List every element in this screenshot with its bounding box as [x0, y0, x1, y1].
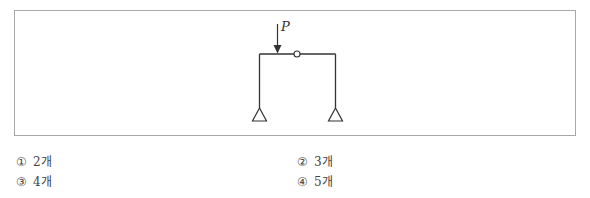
choice-1[interactable]: ①2개	[16, 155, 52, 169]
choice-text: 5개	[314, 175, 333, 189]
choice-text: 4개	[33, 175, 52, 189]
choice-text: 2개	[33, 155, 52, 169]
choice-number: ④	[297, 175, 308, 189]
choice-3[interactable]: ③4개	[16, 175, 52, 189]
hinge-icon	[294, 51, 300, 57]
structure-diagram	[0, 0, 590, 198]
choice-number: ③	[16, 175, 27, 189]
choice-number: ①	[16, 155, 27, 169]
pin-support-left-icon	[253, 108, 267, 121]
pin-support-right-icon	[329, 108, 343, 121]
load-label: P	[281, 20, 290, 33]
choice-2[interactable]: ②3개	[297, 155, 333, 169]
choice-text: 3개	[314, 155, 333, 169]
choice-4[interactable]: ④5개	[297, 175, 333, 189]
choice-number: ②	[297, 155, 308, 169]
